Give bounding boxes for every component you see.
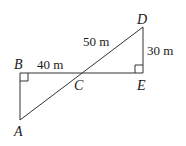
point-label-D: D	[136, 12, 147, 27]
point-label-A: A	[13, 124, 23, 139]
point-label-B: B	[14, 57, 23, 72]
measurement-CD: 50 m	[83, 34, 109, 49]
measurement-DE: 30 m	[147, 43, 173, 58]
right-angle-marker-E	[135, 65, 143, 73]
point-label-E: E	[136, 78, 146, 93]
right-angle-marker-B	[20, 73, 28, 81]
geometry-diagram: B A C D E 40 m 50 m 30 m	[0, 0, 186, 146]
point-label-C: C	[74, 78, 84, 93]
measurement-BC: 40 m	[37, 57, 63, 72]
